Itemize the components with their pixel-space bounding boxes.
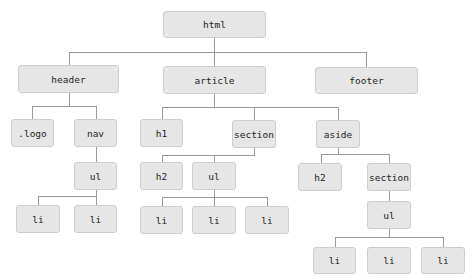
connector <box>96 147 97 162</box>
connector <box>214 94 215 107</box>
node-section-ul: ul <box>192 162 236 190</box>
connector <box>96 190 97 205</box>
connector <box>214 52 215 66</box>
node-aside-ul: ul <box>367 201 411 229</box>
node-header: header <box>18 65 119 93</box>
connector <box>254 148 255 155</box>
connector <box>38 196 39 205</box>
connector <box>69 52 70 65</box>
connector <box>162 107 339 108</box>
node-aside-li-1: li <box>313 247 356 274</box>
node-section-li-2: li <box>192 206 236 234</box>
node-aside-li-3: li <box>421 247 465 274</box>
connector <box>38 196 96 197</box>
node-nav-li-2: li <box>74 205 117 233</box>
connector <box>214 197 215 206</box>
node-section: section <box>232 120 276 148</box>
connector <box>69 52 367 53</box>
connector <box>214 190 215 197</box>
node-aside-section: section <box>367 163 411 191</box>
connector <box>267 197 268 206</box>
node-nav-ul: ul <box>74 162 117 190</box>
connector <box>162 155 163 162</box>
node-footer: footer <box>315 67 418 94</box>
node-h1: h1 <box>140 119 183 147</box>
node-section-li-3: li <box>245 206 289 234</box>
connector <box>32 106 96 107</box>
connector <box>366 52 367 67</box>
connector <box>69 93 70 106</box>
node-html: html <box>163 11 266 38</box>
node-logo: .logo <box>11 119 54 147</box>
node-section-li-1: li <box>140 206 183 234</box>
connector <box>443 237 444 247</box>
connector <box>389 191 390 201</box>
connector <box>321 154 389 155</box>
connector <box>214 155 215 162</box>
node-aside: aside <box>316 120 360 148</box>
node-article: article <box>163 66 266 94</box>
connector <box>335 237 336 247</box>
connector <box>338 107 339 120</box>
connector <box>96 106 97 119</box>
dom-tree-diagram: html header article footer .logo nav ul … <box>0 0 474 278</box>
connector <box>254 107 255 120</box>
connector <box>321 154 322 163</box>
node-nav: nav <box>74 119 117 147</box>
node-aside-li-2: li <box>367 247 411 274</box>
connector <box>214 38 215 52</box>
connector <box>389 229 390 237</box>
node-aside-h2: h2 <box>298 163 342 191</box>
connector <box>162 197 163 206</box>
connector <box>162 197 268 198</box>
connector <box>335 237 443 238</box>
node-section-h2: h2 <box>140 162 183 190</box>
node-nav-li-1: li <box>16 205 60 233</box>
connector <box>389 154 390 163</box>
connector <box>162 107 163 119</box>
connector <box>162 155 255 156</box>
connector <box>32 106 33 119</box>
